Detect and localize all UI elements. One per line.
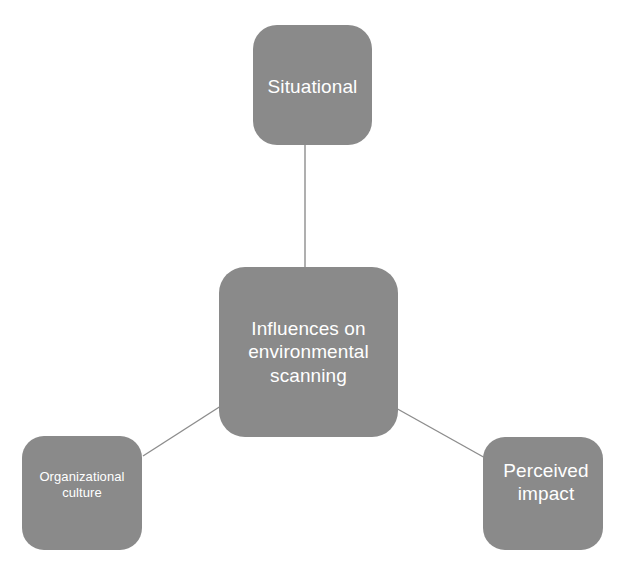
node-center-influences-on-environmental-scanning[interactable]: Influences on environmental scanning xyxy=(219,267,398,437)
node-perceived-impact-label: Perceived impact xyxy=(497,459,595,505)
connector-impact-to-center xyxy=(394,407,487,459)
node-perceived-impact[interactable]: Perceived impact xyxy=(483,437,603,550)
node-situational-label: Situational xyxy=(261,75,364,98)
node-situational[interactable]: Situational xyxy=(253,25,372,145)
concept-diagram: Situational Influences on environmental … xyxy=(0,0,619,579)
connector-culture-to-center xyxy=(143,404,224,456)
node-organizational-culture-label: Organizational culture xyxy=(30,469,134,501)
node-center-label: Influences on environmental scanning xyxy=(227,317,390,387)
node-organizational-culture[interactable]: Organizational culture xyxy=(22,436,142,550)
